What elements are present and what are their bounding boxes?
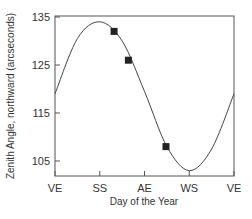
chart: 105115125135 VESSAEWSVE Day of the Year … [0,0,252,219]
plot-frame [55,16,234,176]
y-tick-label: 135 [32,11,50,23]
y-axis-label: Zenith Angle, northward (arcseconds) [5,13,16,179]
x-tick-label: SS [92,182,107,194]
y-tick-label: 115 [32,107,50,119]
y-tick-label: 105 [32,155,50,167]
observation-points [111,28,170,150]
x-tick-label: WS [180,182,198,194]
x-axis-label: Day of the Year [110,196,179,207]
x-axis: VESSAEWSVE [48,171,242,194]
y-axis: 105115125135 [32,11,60,167]
y-tick-label: 125 [32,59,50,71]
x-tick-label: VE [227,182,242,194]
data-point-marker [111,28,118,35]
x-tick-label: VE [48,182,63,194]
data-point-marker [125,57,132,64]
x-tick-label: AE [137,182,152,194]
data-point-marker [162,143,169,150]
model-curve [55,22,234,171]
